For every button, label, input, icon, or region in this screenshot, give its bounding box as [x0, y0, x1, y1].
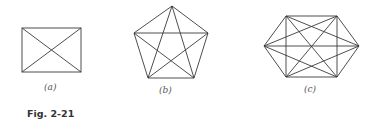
graph-k4: [22, 28, 81, 72]
panel-label-c: (c): [304, 84, 316, 94]
figure-canvas: [0, 0, 379, 122]
graph-k6: [264, 16, 359, 77]
graph-k5: [134, 6, 208, 78]
panel-label-a: (a): [44, 82, 56, 92]
figure-caption: Fig. 2-21: [27, 108, 74, 119]
panel-label-b: (b): [159, 85, 172, 95]
